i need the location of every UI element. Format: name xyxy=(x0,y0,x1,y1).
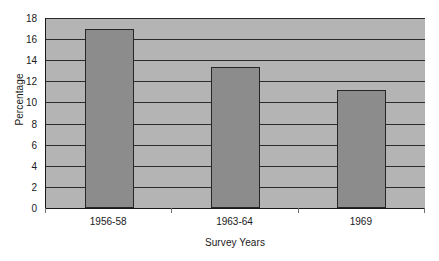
x-axis-tick-mark xyxy=(45,208,46,213)
y-axis-tick-label: 14 xyxy=(0,55,41,66)
bar xyxy=(211,67,260,208)
x-axis-tick-marks xyxy=(45,208,425,214)
x-axis-tick-labels: 1956-581963-641969 xyxy=(45,216,425,232)
y-axis-tick-label: 12 xyxy=(0,76,41,87)
y-axis-tick-label: 10 xyxy=(0,97,41,108)
x-axis-tick-label: 1963-64 xyxy=(216,216,253,227)
plot-area xyxy=(45,18,425,208)
bar xyxy=(85,29,134,208)
x-axis-tick-mark xyxy=(298,208,299,213)
bar-chart-figure: Percentage 024681012141618 1956-581963-6… xyxy=(0,0,439,261)
x-axis-tick-label: 1956-58 xyxy=(90,216,127,227)
x-axis-tick-mark xyxy=(171,208,172,213)
bars-layer xyxy=(46,18,425,208)
y-axis-tick-label: 4 xyxy=(0,160,41,171)
x-axis-title: Survey Years xyxy=(45,237,425,248)
y-axis-tick-label: 18 xyxy=(0,13,41,24)
x-axis-tick-mark xyxy=(424,208,425,213)
y-axis-tick-label: 0 xyxy=(0,203,41,214)
y-axis-tick-label: 6 xyxy=(0,139,41,150)
y-axis-tick-label: 2 xyxy=(0,181,41,192)
bar xyxy=(337,90,386,208)
y-axis-tick-label: 8 xyxy=(0,118,41,129)
x-axis-tick-label: 1969 xyxy=(350,216,372,227)
y-axis-tick-label: 16 xyxy=(0,34,41,45)
y-axis-tick-labels: 024681012141618 xyxy=(0,18,41,208)
